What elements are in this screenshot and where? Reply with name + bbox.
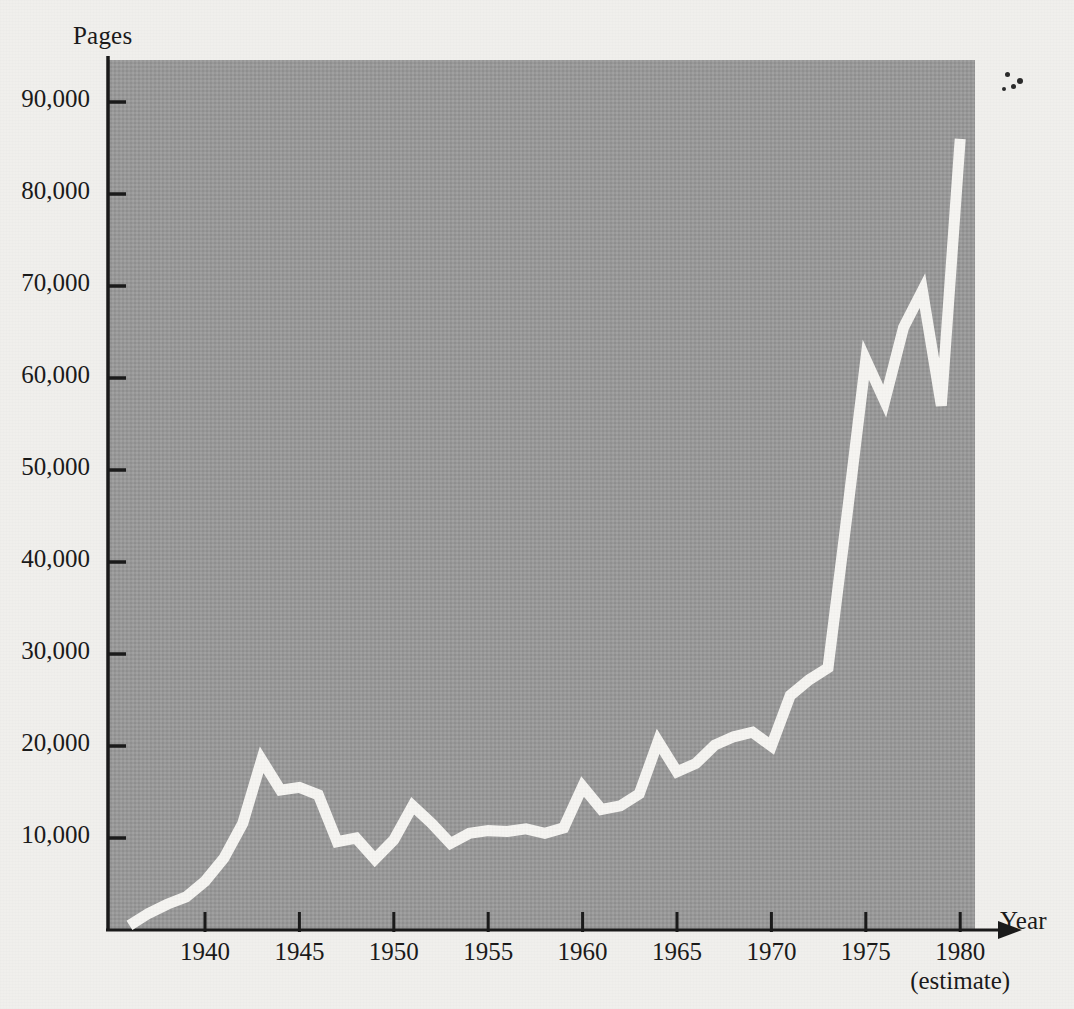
y-axis-tick-label: 60,000	[0, 361, 90, 389]
chart-plot-svg	[0, 0, 1074, 1009]
y-axis-tick-label: 50,000	[0, 453, 90, 481]
x-axis-estimate-note: (estimate)	[860, 967, 1060, 995]
federal-register-pages-chart: Pages Year 90,00080,00070,00060,00050,00…	[0, 0, 1074, 1009]
y-axis-tick-label: 30,000	[0, 637, 90, 665]
y-axis-tick-label: 90,000	[0, 85, 90, 113]
scan-speck	[1005, 72, 1010, 77]
y-axis-tick-label: 20,000	[0, 729, 90, 757]
scan-speck	[1017, 78, 1023, 84]
y-axis-tick-label: 10,000	[0, 821, 90, 849]
scan-speck	[1002, 87, 1006, 91]
y-axis-title: Pages	[73, 22, 132, 50]
scan-speck	[1011, 84, 1016, 89]
y-axis-tick-label: 70,000	[0, 269, 90, 297]
y-axis-tick-label: 40,000	[0, 545, 90, 573]
x-axis-tick-label: 1980	[900, 938, 1020, 966]
y-axis-tick-label: 80,000	[0, 177, 90, 205]
x-axis-title: Year	[1000, 907, 1047, 935]
